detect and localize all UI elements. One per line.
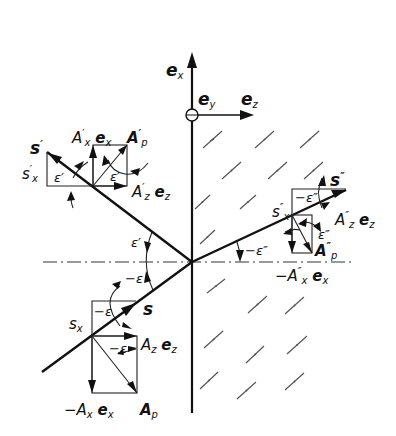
ex-axis <box>187 52 197 413</box>
neg-eps-box-label: −ε <box>94 305 112 318</box>
az-double-prime-label: A″z ez <box>335 211 374 230</box>
ez-axis-label: ez <box>241 91 258 110</box>
s-label: s <box>143 301 153 318</box>
ap-double-prime-label: A″p <box>315 242 337 261</box>
ax-double-prime-arrow-icon <box>288 241 296 253</box>
angle-arc-right <box>236 242 244 262</box>
ap-label: Ap <box>140 403 158 420</box>
sx-label: sx <box>69 317 83 334</box>
incident-sx-box <box>88 281 137 393</box>
neg-eps-double-prime-box-label: −ε″ <box>295 191 318 204</box>
ap-double-prime-arrow-icon <box>303 242 312 253</box>
sx-prime-label: s′x <box>22 165 38 184</box>
neg-eps-normal-label: −ε <box>125 272 143 285</box>
diagram-stage: ex ey ez s′ s′x ε′ A′x ex A′p ε′ A′z ez … <box>0 0 396 436</box>
ey-axis-label: ey <box>198 91 215 110</box>
az-arrow-icon <box>124 332 137 340</box>
sx-double-prime-label: s″x <box>272 203 290 222</box>
ez-arrow-icon <box>240 110 254 120</box>
eps-prime-normal-label: ε′ <box>131 236 141 249</box>
angle-arcs-left <box>144 232 153 290</box>
eps-prime-box-label: ε′ <box>54 171 64 184</box>
medium-hatching <box>195 131 323 399</box>
ey-ez-axes <box>186 109 254 121</box>
az-label: Az ez <box>141 338 177 355</box>
ap-prime-label: A′p <box>127 129 148 148</box>
neg-ax-label: −Ax ex <box>64 403 114 420</box>
neg-ax-double-prime-label: −A″x ex <box>275 267 328 286</box>
s-double-prime-label: s″ <box>330 172 345 189</box>
ax-prime-label: A′x ex <box>72 129 111 148</box>
s-prime-label: s′ <box>30 140 43 157</box>
eps-double-prime-vector-label: ε″ <box>318 228 330 241</box>
neg-eps-vector-label: −ε <box>109 342 127 355</box>
ex-arrow-icon <box>187 52 197 68</box>
az-prime-label: A′z ez <box>132 183 170 202</box>
eps-prime-vector-label: ε′ <box>110 170 120 183</box>
neg-eps-double-prime-normal-label: −ε″ <box>245 244 268 257</box>
s-arrow-icon <box>121 303 136 316</box>
ex-axis-label: ex <box>166 62 183 81</box>
ax-arrow-icon <box>88 380 96 393</box>
